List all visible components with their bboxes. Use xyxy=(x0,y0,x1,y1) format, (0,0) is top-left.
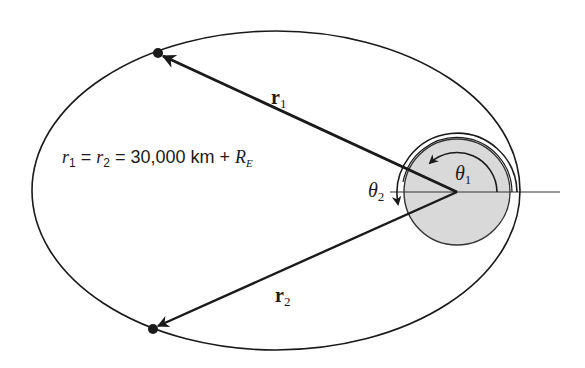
orbit-diagram: r1 r2 θ1 θ2 r1 = r2 = 30,000 km + RE xyxy=(0,0,585,368)
radius-equation-label: r1 = r2 = 30,000 km + RE xyxy=(62,147,253,170)
r1-label: r1 xyxy=(271,86,286,111)
r2-label: r2 xyxy=(275,284,290,309)
r2-vector-arrow xyxy=(158,192,457,326)
r1-vector-arrow xyxy=(163,56,457,192)
theta2-label: θ2 xyxy=(368,179,384,204)
satellite-1-dot xyxy=(153,48,163,58)
satellite-2-dot xyxy=(148,324,158,334)
